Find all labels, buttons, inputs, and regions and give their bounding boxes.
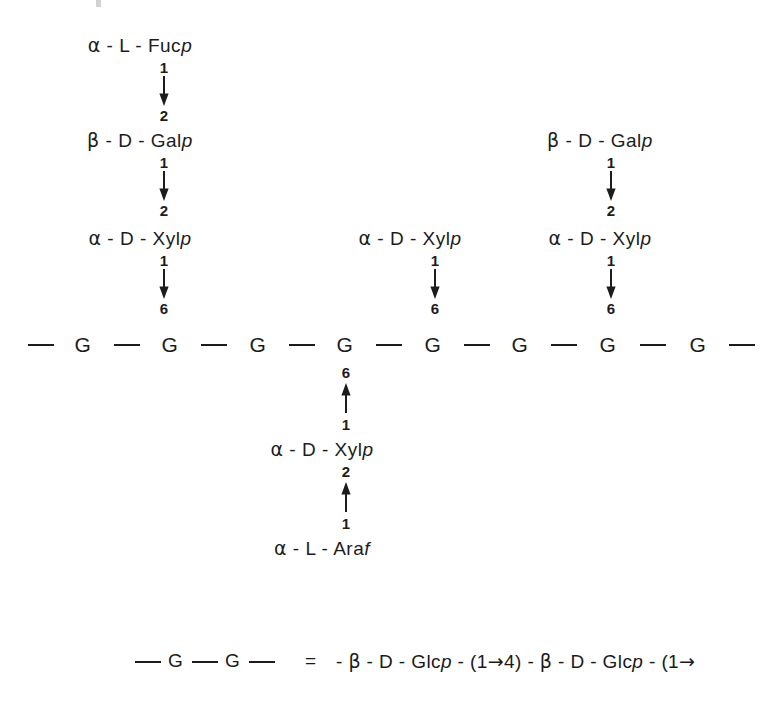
backbone-unit-6: G (512, 334, 529, 355)
arrow-xylose-to-backbone-left (157, 269, 171, 299)
arrow-galactose-to-xylose-left (157, 171, 171, 201)
digit-galactose-donor-left: 1 (160, 155, 168, 170)
digit-xylose-acceptor-lower: 2 (342, 464, 350, 479)
backbone-unit-8: G (690, 334, 707, 355)
residue-fucose-left: α - L - Fucp (88, 36, 192, 55)
digit-backbone-acceptor-lower: 6 (342, 365, 350, 380)
backbone-unit-3: G (250, 334, 267, 355)
residue-xylose-right: α - D - Xylp (549, 229, 652, 248)
digit-xylose-donor-lower: 1 (342, 417, 350, 432)
residue-galactose-right: β - D - Galp (547, 131, 653, 150)
digit-backbone-acceptor-right: 6 (607, 301, 615, 316)
legend-expansion: - β - D - Glcp - (1→4) - β - D - Glcp - … (336, 650, 695, 673)
digit-arabinose-donor: 1 (342, 516, 350, 531)
backbone-unit-1: G (75, 334, 92, 355)
digit-backbone-acceptor-middle: 6 (431, 301, 439, 316)
digit-xylose-acceptor-right: 2 (607, 203, 615, 218)
backbone-bond-4 (376, 344, 402, 346)
backbone-unit-2: G (162, 334, 179, 355)
residue-xylose-left: α - D - Xylp (89, 229, 192, 248)
residue-xylose-middle: α - D - Xylp (359, 229, 462, 248)
digit-backbone-acceptor-left: 6 (160, 301, 168, 316)
backbone-bond-1 (114, 344, 140, 346)
digit-xylose-donor-right: 1 (607, 253, 615, 268)
arrow-fucose-to-galactose (157, 76, 171, 106)
digit-fucose-donor: 1 (160, 60, 168, 75)
backbone-bond-leading (28, 344, 54, 346)
backbone-bond-7 (640, 344, 666, 346)
figure-canvas: α - L - Fucp 1 2 β - D - Galp 1 2 α - D … (0, 0, 772, 702)
arrow-xylose-to-backbone-middle (428, 269, 442, 299)
digit-xylose-acceptor-left: 2 (160, 203, 168, 218)
residue-arabinose-lower: α - L - Araf (274, 539, 370, 558)
arrow-arabinose-to-xylose (339, 482, 353, 512)
legend-dash-middle (192, 661, 218, 663)
arrow-galactose-to-xylose-right (604, 171, 618, 201)
digit-galactose-donor-right: 1 (607, 155, 615, 170)
legend-equals-sign: = (305, 650, 317, 672)
digit-xylose-donor-middle: 1 (431, 253, 439, 268)
digit-xylose-donor-left: 1 (160, 253, 168, 268)
backbone-bond-6 (551, 344, 577, 346)
residue-xylose-lower: α - D - Xylp (271, 440, 374, 459)
backbone-unit-5: G (425, 334, 442, 355)
backbone-bond-5 (464, 344, 490, 346)
arrow-xylose-to-backbone-lower (339, 383, 353, 413)
legend-dash-trailing (249, 661, 275, 663)
digit-galactose-acceptor-left: 2 (160, 108, 168, 123)
backbone-bond-trailing (729, 344, 755, 346)
legend-unit-2: G (225, 650, 240, 672)
legend-dash-leading (135, 661, 161, 663)
arrow-xylose-to-backbone-right (604, 269, 618, 299)
scan-artifact (96, 0, 101, 7)
backbone-unit-4: G (337, 334, 354, 355)
residue-galactose-left: β - D - Galp (87, 131, 193, 150)
backbone-bond-2 (201, 344, 227, 346)
backbone-bond-3 (289, 344, 315, 346)
legend-unit-1: G (168, 650, 183, 672)
backbone-unit-7: G (600, 334, 617, 355)
